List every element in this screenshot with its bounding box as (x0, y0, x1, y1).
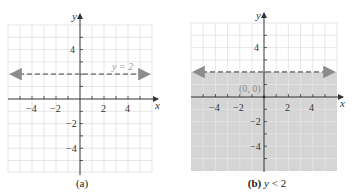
y-axis-label-b: y (255, 9, 261, 21)
y-tick-neg4-b: −4 (250, 141, 261, 152)
x-tick-4-b: 4 (309, 102, 314, 113)
x-axis-label-b: x (339, 97, 345, 109)
test-point-label-b: (0, 0) (239, 83, 261, 95)
caption-b-letter: (b) (248, 177, 261, 189)
x-tick-neg4-b: −4 (209, 102, 220, 113)
origin-point-b (263, 96, 266, 99)
y-tick-4-a: 4 (70, 44, 75, 55)
x-tick-neg2-b: −2 (233, 102, 244, 113)
x-tick-2-b: 2 (285, 102, 290, 113)
panel-b: y x (0, 0) −4 −2 2 4 4 −2 −4 (191, 9, 345, 172)
caption-a: (a) (70, 177, 94, 189)
y-axis-label-a: y (71, 10, 77, 22)
x-tick-2-a: 2 (101, 103, 106, 114)
x-tick-4-a: 4 (125, 103, 130, 114)
x-tick-neg4-a: −4 (26, 103, 37, 114)
caption-b: (b) y < 2 (232, 177, 302, 189)
panel-a: y x y = 2 −4 −2 2 4 4 −2 −4 (8, 10, 160, 175)
y-tick-4-b: 4 (254, 42, 259, 53)
y-tick-neg4-a: −4 (66, 143, 77, 154)
x-axis-label-a: x (154, 99, 160, 111)
caption-b-rest: < 2 (269, 177, 286, 189)
line-label-a: y = 2 (111, 61, 133, 72)
inequality-graphs: y x y = 2 −4 −2 2 4 4 −2 −4 (0, 0, 353, 196)
y-tick-neg2-b: −2 (250, 116, 261, 127)
x-tick-neg2-a: −2 (50, 103, 61, 114)
y-tick-neg2-a: −2 (66, 118, 77, 129)
